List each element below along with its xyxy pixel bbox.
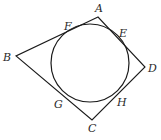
label-h: H [116,96,127,109]
label-f: F [63,20,72,33]
label-d: D [147,62,157,75]
label-b: B [2,51,11,64]
label-g: G [54,98,63,111]
label-a: A [94,2,103,15]
inscribed-circle [51,24,129,102]
label-e: E [118,27,127,40]
quadrilateral-circle-diagram: A B C D E F G H [0,0,161,140]
label-c: C [88,122,97,135]
